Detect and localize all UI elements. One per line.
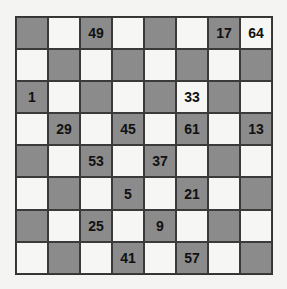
board-cell-r5-c7[interactable] <box>240 177 272 209</box>
board-cell-r4-c7[interactable] <box>240 145 272 177</box>
board-cell-r6-c0[interactable] <box>16 210 48 242</box>
board-cell-r0-c4[interactable] <box>144 17 176 49</box>
board-cell-r5-c1[interactable] <box>48 177 80 209</box>
board-cell-r6-c5[interactable] <box>176 210 208 242</box>
board-cell-r7-c7[interactable] <box>240 242 272 274</box>
board-cell-r2-c1[interactable] <box>48 81 80 113</box>
board-cell-r1-c5[interactable] <box>176 49 208 81</box>
board-cell-r7-c1[interactable] <box>48 242 80 274</box>
board-cell-r0-c6[interactable]: 17 <box>208 17 240 49</box>
puzzle-board: 4917641332945611353375212594157 <box>15 16 273 275</box>
board-cell-r0-c5[interactable] <box>176 17 208 49</box>
board-cell-r5-c5[interactable]: 21 <box>176 177 208 209</box>
board-cell-r3-c3[interactable]: 45 <box>112 113 144 145</box>
board-cell-r5-c3[interactable]: 5 <box>112 177 144 209</box>
board-cell-r5-c6[interactable] <box>208 177 240 209</box>
board-cell-r3-c0[interactable] <box>16 113 48 145</box>
board-cell-r3-c5[interactable]: 61 <box>176 113 208 145</box>
board-cell-r6-c1[interactable] <box>48 210 80 242</box>
board-cell-r4-c3[interactable] <box>112 145 144 177</box>
board-cell-r2-c0[interactable]: 1 <box>16 81 48 113</box>
board-cell-r4-c4[interactable]: 37 <box>144 145 176 177</box>
board-cell-r2-c3[interactable] <box>112 81 144 113</box>
board-cell-r3-c1[interactable]: 29 <box>48 113 80 145</box>
board-cell-r2-c6[interactable] <box>208 81 240 113</box>
board-cell-r5-c2[interactable] <box>80 177 112 209</box>
board-cell-r1-c6[interactable] <box>208 49 240 81</box>
board-cell-r7-c5[interactable]: 57 <box>176 242 208 274</box>
board-cell-r6-c6[interactable] <box>208 210 240 242</box>
board-cell-r3-c7[interactable]: 13 <box>240 113 272 145</box>
board-cell-r6-c3[interactable] <box>112 210 144 242</box>
board-cell-r5-c0[interactable] <box>16 177 48 209</box>
board-cell-r7-c2[interactable] <box>80 242 112 274</box>
board-cell-r6-c7[interactable] <box>240 210 272 242</box>
board-cell-r2-c4[interactable] <box>144 81 176 113</box>
board-cell-r3-c2[interactable] <box>80 113 112 145</box>
board-cell-r4-c6[interactable] <box>208 145 240 177</box>
board-cell-r1-c4[interactable] <box>144 49 176 81</box>
board-cell-r0-c7[interactable]: 64 <box>240 17 272 49</box>
board-cell-r4-c1[interactable] <box>48 145 80 177</box>
board-cell-r4-c0[interactable] <box>16 145 48 177</box>
board-cell-r0-c0[interactable] <box>16 17 48 49</box>
board-cell-r7-c6[interactable] <box>208 242 240 274</box>
board-cell-r2-c2[interactable] <box>80 81 112 113</box>
board-cell-r5-c4[interactable] <box>144 177 176 209</box>
board-cell-r0-c3[interactable] <box>112 17 144 49</box>
board-cell-r1-c2[interactable] <box>80 49 112 81</box>
board-cell-r1-c3[interactable] <box>112 49 144 81</box>
board-cell-r6-c4[interactable]: 9 <box>144 210 176 242</box>
board-cell-r0-c1[interactable] <box>48 17 80 49</box>
board-cell-r4-c5[interactable] <box>176 145 208 177</box>
board-cell-r2-c7[interactable] <box>240 81 272 113</box>
board-cell-r7-c3[interactable]: 41 <box>112 242 144 274</box>
board-cell-r0-c2[interactable]: 49 <box>80 17 112 49</box>
board-cell-r4-c2[interactable]: 53 <box>80 145 112 177</box>
board-cell-r7-c4[interactable] <box>144 242 176 274</box>
board-cell-r1-c1[interactable] <box>48 49 80 81</box>
board-cell-r6-c2[interactable]: 25 <box>80 210 112 242</box>
board-cell-r3-c4[interactable] <box>144 113 176 145</box>
board-cell-r2-c5[interactable]: 33 <box>176 81 208 113</box>
board-cell-r7-c0[interactable] <box>16 242 48 274</box>
board-cell-r3-c6[interactable] <box>208 113 240 145</box>
board-cell-r1-c7[interactable] <box>240 49 272 81</box>
board-cell-r1-c0[interactable] <box>16 49 48 81</box>
